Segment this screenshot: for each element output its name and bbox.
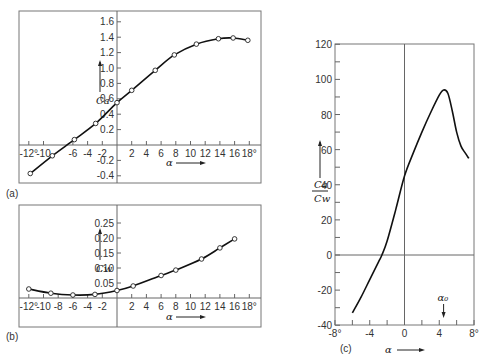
data-point	[194, 42, 199, 47]
y-tick-label: 20	[321, 215, 333, 226]
x-tick-label: 16	[229, 148, 241, 159]
data-point	[71, 293, 76, 298]
x-tick-label: 8	[173, 301, 179, 312]
data-point	[199, 257, 204, 262]
x-tick-label: -6	[68, 301, 77, 312]
x-tick-label: -10	[36, 301, 51, 312]
arrow-up-icon	[318, 140, 322, 146]
x-tick-label: 4	[144, 301, 150, 312]
x-tick-label: -2	[98, 301, 107, 312]
x-tick-label: 12	[200, 148, 212, 159]
panel-b-drag-coefficient: -12°-10-8-6-4-224681012141618°0.250.200.…	[6, 205, 261, 342]
y-tick-label: 0.2	[100, 124, 114, 135]
y-tick-label: 1.2	[100, 47, 114, 58]
x-tick-label: 18°	[242, 148, 257, 159]
x-axis-label: α	[166, 157, 173, 168]
data-point	[246, 38, 251, 43]
x-tick-label: -8	[54, 301, 63, 312]
data-point	[172, 53, 177, 58]
y-axis-label: Cw	[96, 263, 113, 274]
x-tick-label: 14	[214, 148, 226, 159]
x-axis-label: α	[166, 311, 173, 322]
alpha0-annotation: α₀	[438, 292, 449, 303]
y-tick-label: 1.4	[100, 32, 114, 43]
y-tick-label: 100	[315, 74, 332, 85]
data-point	[174, 268, 179, 273]
arrow-right-icon	[200, 161, 206, 165]
y-axis-label-denominator: Cw	[314, 193, 331, 204]
panel-c-lift-drag-ratio: 120100806040200-20-40-8°-4048°CaCwαα₀(c)	[312, 39, 479, 355]
x-tick-label: 4	[436, 328, 442, 339]
x-tick-label: 14	[214, 301, 226, 312]
arrow-up-icon	[98, 228, 102, 234]
data-point	[218, 246, 223, 251]
x-tick-label: 6	[158, 148, 164, 159]
data-point	[115, 100, 120, 105]
arrow-right-icon	[419, 348, 425, 352]
data-point	[153, 68, 158, 73]
data-point	[129, 88, 134, 93]
y-axis-label: Ca	[96, 95, 110, 106]
data-point	[115, 288, 120, 293]
y-tick-label: 0.15	[95, 248, 115, 259]
data-point	[131, 284, 136, 289]
y-tick-label: 0.05	[95, 278, 115, 289]
y-tick-label: 120	[315, 39, 332, 50]
x-tick-label: 8	[173, 148, 179, 159]
data-point	[216, 36, 221, 41]
x-tick-label: 12	[200, 301, 212, 312]
x-tick-label: 2	[129, 148, 135, 159]
data-point	[159, 273, 164, 278]
data-point	[50, 153, 55, 158]
y-axis-label-numerator: Ca	[314, 179, 328, 190]
y-tick-label: 0.8	[100, 78, 114, 89]
x-tick-label: -8°	[329, 328, 342, 339]
data-curve	[352, 90, 468, 313]
x-tick-label: 10	[185, 301, 197, 312]
arrow-down-icon	[442, 312, 446, 318]
y-tick-label: 1.6	[100, 16, 114, 27]
x-tick-label: -6	[68, 148, 77, 159]
panel-label: (a)	[6, 188, 18, 199]
x-tick-label: 16	[229, 301, 241, 312]
data-point	[93, 292, 98, 297]
x-tick-label: -4	[365, 328, 374, 339]
y-tick-label: 1.0	[100, 63, 114, 74]
data-point	[27, 287, 32, 292]
x-tick-label: -4	[83, 148, 92, 159]
x-tick-label: -12°	[20, 301, 38, 312]
x-tick-label: -12°	[20, 148, 38, 159]
y-tick-label: -20	[318, 285, 333, 296]
data-point	[28, 171, 33, 176]
x-tick-label: 6	[158, 301, 164, 312]
panel-label: (b)	[6, 331, 18, 342]
y-tick-label: 0.20	[95, 233, 115, 244]
data-point	[93, 121, 98, 126]
y-tick-label: 80	[321, 110, 333, 121]
y-tick-label: -0.4	[97, 170, 115, 181]
x-tick-label: -4	[83, 301, 92, 312]
y-tick-label: 0.25	[95, 218, 115, 229]
x-tick-label: 18°	[242, 301, 257, 312]
panel-label: (c)	[340, 343, 352, 354]
x-tick-label: 4	[144, 148, 150, 159]
x-tick-label: 10	[185, 148, 197, 159]
panel-a-lift-coefficient: -12°-10-6-4-224681012141618°1.61.41.21.0…	[6, 11, 261, 199]
x-tick-label: 8°	[469, 328, 479, 339]
data-point	[72, 137, 77, 142]
figure: -12°-10-6-4-224681012141618°1.61.41.21.0…	[0, 0, 487, 363]
x-axis-label: α	[385, 344, 392, 355]
y-tick-label: 0	[326, 250, 332, 261]
x-tick-label: 0	[402, 328, 408, 339]
y-tick-label: 60	[321, 145, 333, 156]
arrow-right-icon	[200, 315, 206, 319]
y-tick-label: -0.2	[97, 155, 115, 166]
x-tick-label: -10	[36, 148, 51, 159]
data-point	[232, 237, 237, 242]
x-tick-label: 2	[129, 301, 135, 312]
data-point	[49, 291, 54, 296]
data-point	[231, 36, 236, 41]
